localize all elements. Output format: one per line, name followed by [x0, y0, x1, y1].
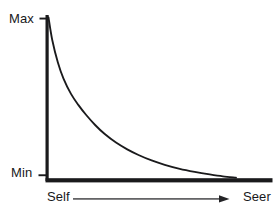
decay-curve-path [49, 18, 237, 178]
y-axis-tick-max [40, 18, 47, 20]
x-axis-arrow-shaft [73, 198, 219, 199]
decay-curve-figure: Max Min Self Seer [0, 0, 279, 218]
x-axis-label-seer: Seer [243, 190, 271, 203]
y-axis-line [46, 15, 49, 181]
plot-area [0, 0, 279, 218]
y-axis-label-min: Min [11, 166, 32, 179]
x-axis-line [46, 178, 273, 182]
y-axis-tick-min [39, 174, 47, 176]
y-axis-label-max: Max [9, 12, 34, 25]
x-axis-arrow-head-icon [219, 195, 230, 202]
x-axis-label-self: Self [47, 190, 70, 203]
